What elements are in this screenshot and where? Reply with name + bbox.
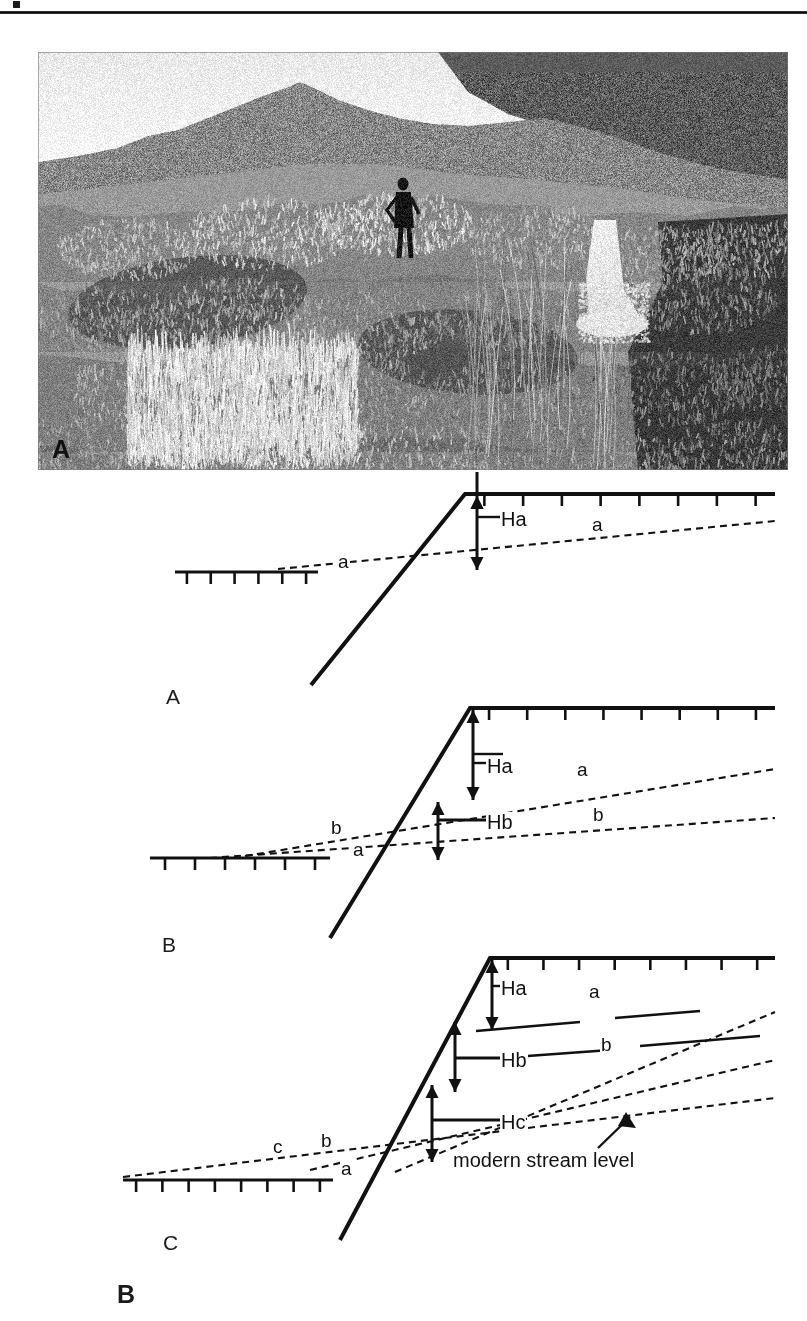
panel-b-height-ha-label: Ha xyxy=(486,756,514,776)
panel-b-surface-a-left-label: a xyxy=(352,840,365,859)
panel-c-height-hb-label: Hb xyxy=(500,1050,528,1070)
panel-a-height-ha-label: Ha xyxy=(500,509,528,529)
terrace-profile-diagrams xyxy=(0,472,807,1321)
photo-panel-a: A xyxy=(38,52,788,470)
subpanel-letter-a: A xyxy=(166,686,180,707)
panel-c-surface-b-right-label: b xyxy=(600,1035,613,1054)
panel-b-height-hb-label: Hb xyxy=(486,812,514,832)
header-rule xyxy=(0,11,807,14)
panel-c-surface-a-right-label: a xyxy=(588,982,601,1001)
diagram-panel-b xyxy=(0,472,807,1321)
panel-b-surface-b-left-label: b xyxy=(330,818,343,837)
page-corner-mark xyxy=(13,1,20,8)
terrace-photograph xyxy=(38,52,788,470)
panel-b-surface-b-right-label: b xyxy=(592,805,605,824)
panel-c-surface-b-left-label: b xyxy=(320,1131,333,1150)
panel-c-surface-a-left-label: a xyxy=(340,1159,353,1178)
panel-b-surface-a-right-label: a xyxy=(576,760,589,779)
panel-a-surface-a-left-label: a xyxy=(337,552,350,571)
panel-c-height-hc-label: Hc xyxy=(500,1112,526,1132)
modern-stream-level-annotation: modern stream level xyxy=(452,1150,635,1170)
photo-panel-letter: A xyxy=(52,437,71,462)
panel-c-surface-c-left-label: c xyxy=(272,1137,284,1156)
subpanel-letter-b: B xyxy=(162,934,176,955)
subpanel-letter-c: C xyxy=(163,1232,178,1253)
panel-c-height-ha-label: Ha xyxy=(500,978,528,998)
panel-a-surface-a-right-label: a xyxy=(591,515,604,534)
figure-panel-letter-b: B xyxy=(117,1282,135,1307)
